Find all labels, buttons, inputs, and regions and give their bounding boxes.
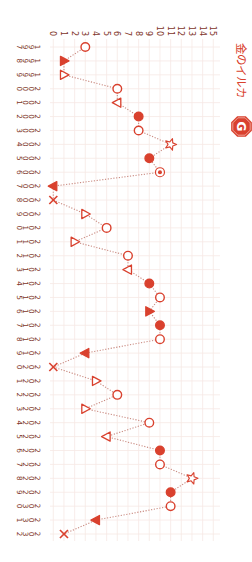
x-tick-label: 2015 [15, 295, 42, 300]
x-tick-char: 7 [15, 184, 24, 189]
x-tick-label: 2023 [15, 406, 42, 411]
data-point-filled-circle [145, 279, 154, 288]
x-tick-char: 0 [15, 504, 24, 509]
x-tick-char: 2 [15, 114, 24, 119]
x-tick-label: 2020 [15, 365, 42, 370]
data-point-open-circle [156, 293, 165, 302]
data-point-open-circle [124, 251, 133, 260]
x-tick-char: 9 [15, 351, 24, 356]
x-tick-label: 2031 [15, 518, 42, 523]
x-tick-char: 1 [15, 379, 24, 384]
data-point-filled-triangle-up [60, 56, 69, 65]
y-tick-label: 0 [48, 31, 57, 36]
x-tick-label: 2017 [15, 323, 42, 328]
x-tick-label: 2021 [15, 379, 42, 384]
x-tick-label: 2024 [15, 420, 42, 425]
x-tick-char: 5 [15, 156, 24, 161]
x-tick-label: 2004 [15, 142, 42, 147]
data-point-open-circle [156, 460, 165, 469]
x-tick-label: 2002 [15, 114, 42, 119]
y-tick-label: 5 [102, 31, 111, 36]
data-point-open-circle [102, 224, 111, 233]
x-tick-label: 2013 [15, 267, 42, 272]
data-point-filled-triangle-down [48, 182, 57, 191]
x-tick-char: 7 [15, 323, 24, 328]
data-point-open-circle [113, 84, 122, 93]
x-tick-char: 2 [15, 253, 24, 258]
y-tick-label: 12 [176, 26, 185, 36]
x-tick-char: 3 [15, 128, 24, 133]
x-tick-char: 0 [15, 226, 24, 231]
x-tick-label: 1997 [15, 45, 42, 50]
x-tick-char: 6 [15, 448, 24, 453]
y-tick-label: 4 [91, 31, 100, 36]
y-tick-label: 10 [155, 26, 164, 36]
x-tick-label: 1998 [15, 59, 42, 64]
x-tick-label: 2009 [15, 212, 42, 217]
data-point-open-triangle-down [112, 98, 121, 107]
y-axis-ticks: 0123456789101112131415 [48, 26, 217, 36]
x-tick-char: 8 [15, 337, 24, 342]
x-tick-char: 0 [15, 365, 24, 370]
data-point-filled-circle [145, 154, 154, 163]
data-point-filled-circle [134, 112, 143, 121]
data-point-filled-triangle-down [91, 515, 100, 524]
x-tick-label: 2010 [15, 226, 42, 231]
x-tick-char: 4 [15, 281, 24, 286]
x-tick-label: 2006 [15, 170, 42, 175]
data-point-filled-triangle-up [146, 307, 155, 316]
x-tick-char: 1 [15, 240, 24, 245]
data-point-open-star [166, 139, 177, 150]
data-point-open-triangle-up [92, 376, 101, 385]
data-point-filled-circle [156, 446, 165, 455]
x-tick-label: 2029 [15, 490, 42, 495]
x-tick-char: 3 [15, 267, 24, 272]
x-axis-ticks: 1997199819992000200120022003200420052006… [15, 45, 42, 537]
x-tick-label: 2000 [15, 86, 42, 91]
x-tick-char: 3 [15, 406, 24, 411]
x-tick-char: 0 [15, 86, 24, 91]
x-tick-char: 4 [15, 420, 24, 425]
badge-g-icon: G [231, 116, 252, 137]
y-tick-label: 8 [134, 31, 143, 36]
x-tick-char: 2 [15, 393, 24, 398]
x-tick-label: 2005 [15, 156, 42, 161]
y-tick-label: 14 [198, 26, 207, 36]
series-line [53, 47, 192, 534]
x-tick-char: 9 [15, 490, 24, 495]
data-point-open-circle [81, 43, 90, 52]
x-tick-label: 1999 [15, 73, 42, 78]
x-tick-label: 2007 [15, 184, 42, 189]
x-tick-label: 2022 [15, 393, 42, 398]
y-tick-label: 7 [123, 31, 132, 36]
x-tick-label: 2011 [15, 240, 42, 245]
y-tick-label: 15 [208, 26, 217, 36]
data-point-double-circle [155, 168, 164, 177]
x-tick-char: 2 [15, 532, 24, 537]
x-tick-char: 8 [15, 476, 24, 481]
data-point-open-circle [145, 418, 154, 427]
x-tick-label: 2025 [15, 434, 42, 439]
x-tick-char: 9 [15, 73, 24, 78]
y-tick-label: 6 [112, 31, 121, 36]
x-tick-char: 4 [15, 142, 24, 147]
data-series [48, 43, 198, 538]
y-tick-label: 2 [70, 31, 79, 36]
x-tick-label: 2003 [15, 128, 42, 133]
data-point-open-circle [166, 502, 175, 511]
badge-label: G [234, 122, 248, 132]
data-point-filled-circle [156, 321, 165, 330]
x-tick-char: 7 [15, 462, 24, 467]
x-tick-label: 2032 [15, 532, 42, 537]
y-tick-label: 1 [59, 31, 68, 36]
data-point-open-circle [156, 335, 165, 344]
data-point-open-circle [134, 126, 143, 135]
x-tick-char: 8 [15, 198, 24, 203]
x-tick-char: 9 [15, 212, 24, 217]
x-tick-label: 2026 [15, 448, 42, 453]
chart-title: 金のイルカ [234, 43, 248, 98]
x-tick-label: 2027 [15, 462, 42, 467]
data-point-open-triangle-down [123, 265, 132, 274]
x-tick-label: 2001 [15, 100, 42, 105]
data-point-filled-triangle-down [80, 349, 89, 358]
